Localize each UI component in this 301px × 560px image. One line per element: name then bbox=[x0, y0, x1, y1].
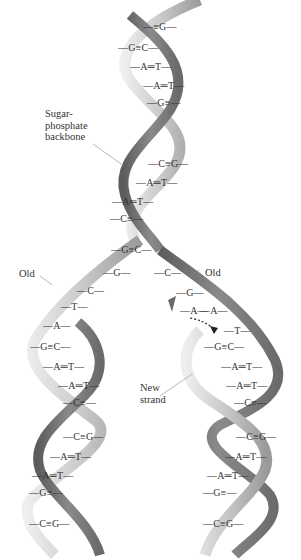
backbone-label-line-1: Sugar- bbox=[45, 108, 88, 120]
left-unpaired-base: —G— bbox=[103, 267, 131, 278]
parent-base-pair: —G≡C— bbox=[111, 244, 152, 255]
new-strand-label: New strand bbox=[140, 382, 166, 405]
backbone-label-line-3: backbone bbox=[45, 131, 88, 143]
left-daughter-base-pair: —A═T— bbox=[58, 380, 99, 391]
parent-base-pair: —G≡C— bbox=[118, 42, 159, 53]
parent-base-pair: —≡G— bbox=[143, 21, 177, 32]
left-unpaired-base: —T— bbox=[61, 301, 88, 312]
right-daughter-base-pair: —C≡— bbox=[234, 397, 267, 408]
backbone-label: Sugar- phosphate backbone bbox=[45, 108, 88, 143]
old-strand-left-label: Old bbox=[19, 268, 35, 280]
parent-base-pair: —A═T— bbox=[112, 196, 153, 207]
parent-base-pair: —A═T— bbox=[143, 80, 184, 91]
left-unpaired-base: —A— bbox=[43, 320, 71, 331]
right-unpaired-base: —A— bbox=[200, 305, 228, 316]
left-unpaired-base: —C— bbox=[77, 285, 104, 296]
backbone-leader-line bbox=[93, 144, 124, 166]
parent-base-pair: —G≡— bbox=[147, 97, 181, 108]
right-unpaired-base: —T— bbox=[224, 325, 251, 336]
left-daughter-base-pair: —G≡C— bbox=[30, 341, 71, 352]
parent-base-pair: —C≡— bbox=[110, 213, 143, 224]
parent-base-pair: —A═T— bbox=[136, 177, 177, 188]
new-strand-label-line-1: New bbox=[140, 382, 166, 394]
old-left-leader-line bbox=[40, 276, 52, 285]
right-daughter-base-pair: —A═T— bbox=[226, 380, 267, 391]
left-daughter-base-pair: —A═T— bbox=[43, 361, 84, 372]
nucleotide-arrow bbox=[190, 318, 214, 330]
old-strand-right-label: Old bbox=[205, 267, 221, 279]
right-daughter-base-pair: —G≡— bbox=[203, 487, 237, 498]
right-daughter-base-pair: —C≡G— bbox=[236, 431, 277, 442]
left-daughter-base-pair: —G≡— bbox=[29, 487, 63, 498]
dna-replication-diagram: Sugar- phosphate backbone Old Old New st… bbox=[0, 0, 301, 560]
left-daughter-base-pair: —A═T— bbox=[50, 451, 91, 462]
left-daughter-base-pair: —C≡— bbox=[63, 397, 96, 408]
parent-base-pair: —C≡G— bbox=[148, 158, 189, 169]
parent-base-pair: —A═T— bbox=[130, 61, 171, 72]
right-daughter-base-pair: —A═T— bbox=[221, 361, 262, 372]
right-unpaired-base: —C— bbox=[154, 267, 181, 278]
right-daughter-base-pair: —G≡C— bbox=[204, 341, 245, 352]
new-strand-fragment bbox=[168, 296, 176, 312]
left-daughter-base-pair: —A═T— bbox=[32, 470, 73, 481]
left-daughter-base-pair: —C≡G— bbox=[29, 518, 70, 529]
right-unpaired-base: —G— bbox=[176, 287, 204, 298]
right-daughter-base-pair: —C≡G— bbox=[203, 518, 244, 529]
left-daughter-base-pair: —C≡G— bbox=[63, 431, 104, 442]
right-daughter-base-pair: —A═T— bbox=[207, 470, 248, 481]
new-strand-label-line-2: strand bbox=[140, 394, 166, 406]
right-daughter-base-pair: —A═T— bbox=[225, 451, 266, 462]
backbone-label-line-2: phosphate bbox=[45, 120, 88, 132]
